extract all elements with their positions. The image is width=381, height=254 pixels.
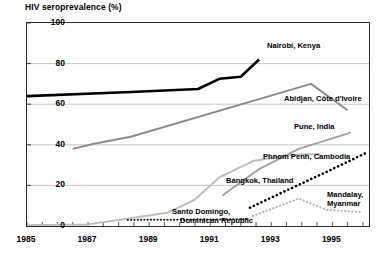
series-label: Abidjan, Côte d'Ivoire (284, 94, 362, 104)
series-label: Phnom Penh, Cambodia (263, 152, 350, 162)
x-tick-label-1995: 1995 (322, 234, 341, 244)
series-label: Nairobi, Kenya (267, 41, 320, 51)
chart-figure: HIV seroprevalence (%) 020406080100 1985… (0, 0, 381, 254)
x-tick-label-1993: 1993 (261, 234, 280, 244)
y-tick-label-60: 60 (43, 98, 65, 108)
x-tick-label-1989: 1989 (139, 234, 158, 244)
series-label: Bangkok, Thailand (226, 176, 294, 186)
y-tick-label-40: 40 (43, 139, 65, 149)
chart-title: HIV seroprevalence (%) (25, 2, 122, 12)
series-label: Dominican Republic (180, 216, 253, 226)
series-line (222, 133, 350, 196)
y-tick-label-20: 20 (43, 179, 65, 189)
x-tick-label-1991: 1991 (200, 234, 219, 244)
x-tick-label-1987: 1987 (78, 234, 97, 244)
y-tick-label-0: 0 (43, 220, 65, 230)
y-tick-label-80: 80 (43, 58, 65, 68)
x-tick-label-1985: 1985 (17, 234, 36, 244)
series-label: Pune, India (294, 122, 335, 132)
series-label: Myanmar (327, 199, 360, 209)
y-tick-label-100: 100 (43, 17, 65, 27)
